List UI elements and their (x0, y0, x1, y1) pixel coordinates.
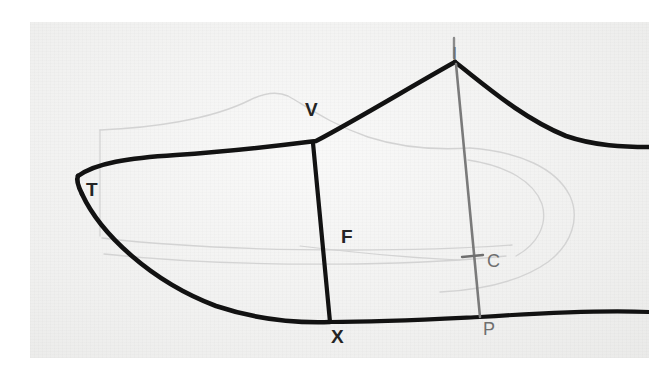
point-label-x: X (331, 327, 344, 346)
measure-line-f-v-to-x (313, 143, 330, 322)
ghost-lower-band-upper (102, 238, 512, 250)
screenshot-root: TVIFCXP (0, 0, 649, 374)
ink-lines (77, 38, 649, 322)
point-label-t: T (86, 180, 98, 199)
ghost-heel-curve-inner (468, 160, 544, 256)
point-label-c: C (487, 252, 500, 270)
ghost-upper-vamp-arc (100, 93, 470, 149)
lower-outline-t-to-x (82, 194, 330, 322)
point-label-f: F (341, 227, 353, 246)
upper-outline-i-to-right-edge (455, 62, 649, 147)
point-label-p: P (483, 320, 495, 338)
upper-outline-t-to-i (78, 62, 455, 176)
measure-line-i-to-p (456, 64, 480, 317)
point-label-v: V (305, 100, 318, 119)
point-label-i: I (452, 44, 457, 63)
tick-mark-c (462, 255, 483, 257)
ghost-heel-curve-outer (440, 148, 574, 292)
toe-point-t (77, 176, 82, 194)
pencil-ghost-lines (100, 93, 574, 292)
